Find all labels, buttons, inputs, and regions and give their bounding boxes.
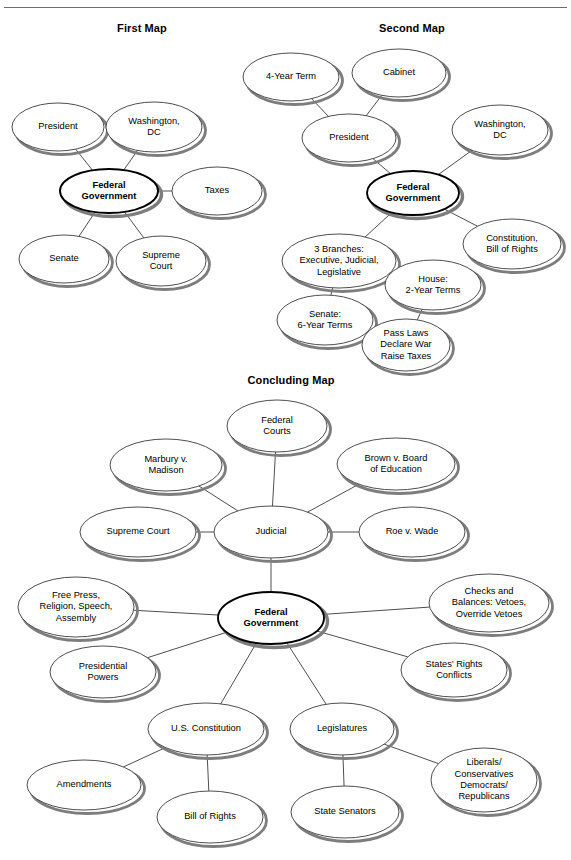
node-ellipse-cm-amendments[interactable] — [27, 760, 141, 810]
edge-cm-judicial-to-cm-brown — [308, 484, 359, 512]
node-ellipse-sm-president[interactable] — [302, 114, 396, 162]
node-ellipse-sm-branches[interactable] — [282, 234, 396, 288]
node-ellipse-sm-constitution[interactable] — [463, 219, 561, 269]
node-ellipse-cm-fedcourts[interactable] — [227, 400, 327, 452]
node-ellipse-cm-legislatures[interactable] — [290, 703, 394, 755]
node-ellipse-sm-washington[interactable] — [452, 105, 548, 155]
node-ellipse-sm-4year[interactable] — [243, 53, 339, 101]
node-ellipse-cm-roe[interactable] — [359, 507, 465, 557]
node-ellipse-fm-federal[interactable] — [60, 169, 158, 213]
edge-sm-federal-to-sm-washington — [438, 150, 472, 174]
concept-map-svg — [0, 0, 571, 860]
node-ellipse-cm-parties[interactable] — [431, 748, 537, 812]
node-ellipse-cm-freepress[interactable] — [18, 577, 134, 637]
second-map-title: Second Map — [352, 22, 472, 34]
edge-cm-federal-to-cm-prespowers — [147, 632, 226, 658]
node-ellipse-fm-senate[interactable] — [19, 235, 109, 283]
edge-cm-legislatures-to-cm-parties — [384, 744, 438, 763]
concluding-map-title: Concluding Map — [226, 374, 356, 386]
node-ellipse-sm-federal[interactable] — [367, 171, 459, 215]
node-ellipse-fm-president[interactable] — [12, 103, 104, 151]
node-ellipse-cm-statesen[interactable] — [291, 786, 399, 838]
node-ellipse-cm-brown[interactable] — [337, 438, 455, 490]
node-ellipse-fm-supreme[interactable] — [116, 236, 206, 286]
edge-cm-federal-to-cm-states — [317, 631, 408, 657]
diagram-canvas: First MapSecond MapConcluding Map Federa… — [0, 0, 571, 860]
node-ellipse-cm-judicial[interactable] — [214, 506, 328, 558]
node-ellipse-cm-prespowers[interactable] — [50, 646, 156, 698]
node-ellipse-cm-checks[interactable] — [429, 574, 549, 632]
node-ellipse-cm-states[interactable] — [401, 643, 507, 697]
edge-cm-federal-to-cm-usconst — [221, 643, 257, 704]
edge-cm-federal-to-cm-legislatures — [287, 643, 326, 704]
node-ellipse-cm-supreme[interactable] — [80, 507, 196, 557]
edge-cm-usconst-to-cm-billrights — [207, 755, 209, 791]
edge-cm-federal-to-cm-checks — [323, 607, 429, 614]
node-ellipse-sm-passlaws[interactable] — [362, 319, 450, 371]
node-ellipse-cm-usconst[interactable] — [148, 703, 264, 755]
edge-sm-federal-to-sm-branches — [365, 213, 392, 237]
edge-cm-usconst-to-cm-amendments — [123, 748, 165, 767]
node-ellipse-cm-federal[interactable] — [218, 592, 324, 644]
nodes-group — [12, 49, 561, 843]
node-ellipse-sm-house[interactable] — [385, 260, 481, 310]
node-ellipse-fm-washington[interactable] — [106, 102, 202, 152]
edge-cm-federal-to-cm-freepress — [134, 610, 219, 615]
node-ellipse-cm-marbury[interactable] — [110, 439, 222, 491]
node-ellipse-fm-taxes[interactable] — [172, 167, 262, 215]
first-map-title: First Map — [82, 22, 202, 34]
edge-cm-judicial-to-cm-fedcourts — [272, 452, 275, 506]
node-ellipse-sm-senate[interactable] — [277, 295, 373, 345]
node-ellipse-cm-billrights[interactable] — [157, 791, 263, 843]
node-ellipse-sm-cabinet[interactable] — [352, 49, 446, 97]
